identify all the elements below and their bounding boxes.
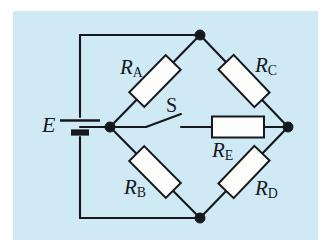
label-resistor-re: RE [212,140,233,163]
label-rb-subscript: B [137,185,146,200]
label-rd-subscript: D [268,186,278,201]
label-re-symbol: R [212,138,225,162]
label-ra-subscript: A [133,65,143,80]
label-ra-symbol: R [120,55,133,79]
label-switch-s: S [166,95,177,115]
resistor-body-re [212,117,264,138]
label-rc-subscript: C [268,63,277,78]
label-re-subscript: E [225,148,234,163]
node-dot-right [283,122,293,132]
label-rc-symbol: R [255,53,268,77]
circuit-figure: E S RA RC RB RD RE [0,0,326,250]
node-dot-left [105,122,115,132]
node-dot-top [195,30,205,40]
label-rb-symbol: R [124,175,137,199]
label-rd-symbol: R [255,176,268,200]
label-resistor-ra: RA [120,57,143,80]
label-resistor-rc: RC [255,55,277,78]
node-dot-bottom [195,213,205,223]
label-resistor-rb: RB [124,177,146,200]
label-resistor-rd: RD [255,178,278,201]
label-source-e: E [42,114,55,136]
